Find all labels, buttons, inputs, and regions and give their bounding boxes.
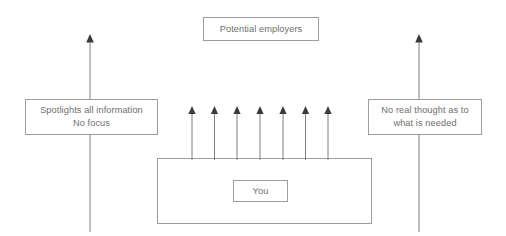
diagram-canvas: Potential employers Spotlights all infor… <box>0 0 506 236</box>
node-no-real-thought: No real thought as to what is needed <box>368 99 482 135</box>
arrow-up-small-1 <box>188 106 195 160</box>
node-you: You <box>233 180 288 202</box>
node-you-label: You <box>253 185 269 198</box>
arrow-up-small-2 <box>211 106 218 160</box>
node-potential-employers-label: Potential employers <box>220 23 303 36</box>
arrow-up-small-6 <box>302 106 309 160</box>
arrow-up-small-7 <box>324 106 331 160</box>
arrow-up-small-3 <box>233 106 240 160</box>
arrow-up-small-5 <box>279 106 286 160</box>
node-potential-employers: Potential employers <box>203 17 319 41</box>
node-spotlights-label: Spotlights all information No focus <box>40 104 143 129</box>
node-spotlights-all-information: Spotlights all information No focus <box>25 99 158 135</box>
arrow-up-small-4 <box>256 106 263 160</box>
node-no-real-thought-label: No real thought as to what is needed <box>381 104 468 129</box>
arrow-up-small-group <box>180 106 344 162</box>
